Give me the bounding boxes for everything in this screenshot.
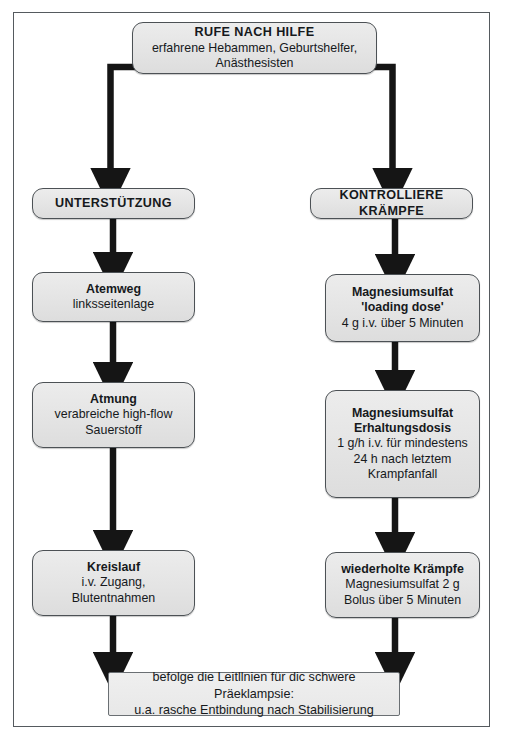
- node-support: UNTERSTÜTZUNG: [32, 188, 195, 219]
- connector-layer: [0, 0, 507, 746]
- node-breathing: Atmung verabreiche high-flow Sauerstoff: [32, 382, 195, 448]
- node-magnesium-loading-dose-line1: Magnesiumsulfat: [332, 285, 473, 300]
- node-magnesium-maintenance-dose-line5: Krampfanfall: [332, 467, 473, 482]
- node-magnesium-maintenance-dose: Magnesiumsulfat Erhaltungsdosis 1 g/h i.…: [325, 390, 480, 498]
- node-circulation: Kreislauf i.v. Zugang, Blutentnahmen: [32, 550, 195, 616]
- node-call-for-help-line2: erfahrene Hebammen, Geburtshelfer,: [139, 41, 370, 56]
- node-airway: Atemweg linksseitenlage: [32, 272, 195, 322]
- node-breathing-line1: Atmung: [39, 392, 188, 407]
- node-circulation-line1: Kreislauf: [39, 560, 188, 575]
- node-magnesium-loading-dose-line2: 'loading dose': [332, 300, 473, 315]
- node-follow-guideline: befolge die Leitllnien für dic schwere P…: [108, 672, 400, 716]
- node-call-for-help: RUFE NACH HILFE erfahrene Hebammen, Gebu…: [132, 22, 377, 74]
- node-call-for-help-line1: RUFE NACH HILFE: [139, 25, 370, 40]
- node-follow-guideline-line2: u.a. rasche Entbindung nach Stabilisieru…: [115, 702, 393, 719]
- node-airway-line2: linksseitenlage: [39, 297, 188, 312]
- node-control-seizure: KONTROLLIERE KRÄMPFE: [310, 188, 473, 219]
- node-magnesium-maintenance-dose-line3: 1 g/h i.v. für mindestens: [332, 436, 473, 451]
- node-breathing-line2: verabreiche high-flow: [39, 407, 188, 422]
- node-magnesium-maintenance-dose-line1: Magnesiumsulfat: [332, 406, 473, 421]
- node-magnesium-maintenance-dose-line2: Erhaltungsdosis: [332, 421, 473, 436]
- node-recurrent-seizures: wiederholte Krämpfe Magnesiumsulfat 2 g …: [325, 552, 480, 618]
- edge-callforhelp-to-support: [111, 67, 141, 172]
- node-airway-line1: Atemweg: [39, 282, 188, 297]
- node-follow-guideline-line1: befolge die Leitllnien für dic schwere P…: [115, 669, 393, 703]
- node-breathing-line3: Sauerstoff: [39, 423, 188, 438]
- node-recurrent-seizures-line1: wiederholte Krämpfe: [332, 562, 473, 577]
- flowchart-canvas: RUFE NACH HILFE erfahrene Hebammen, Gebu…: [0, 0, 507, 746]
- node-call-for-help-line3: Anästhesisten: [139, 56, 370, 71]
- node-control-seizure-line1: KONTROLLIERE KRÄMPFE: [317, 188, 466, 219]
- node-magnesium-loading-dose-line3: 4 g i.v. über 5 Minuten: [332, 316, 473, 331]
- edge-callforhelp-to-controlseizure: [369, 67, 393, 172]
- node-magnesium-loading-dose: Magnesiumsulfat 'loading dose' 4 g i.v. …: [325, 274, 480, 342]
- node-recurrent-seizures-line3: Bolus über 5 Minuten: [332, 593, 473, 608]
- node-support-line1: UNTERSTÜTZUNG: [39, 196, 188, 211]
- node-magnesium-maintenance-dose-line4: 24 h nach letztem: [332, 452, 473, 467]
- node-recurrent-seizures-line2: Magnesiumsulfat 2 g: [332, 577, 473, 592]
- node-circulation-line3: Blutentnahmen: [39, 591, 188, 606]
- node-circulation-line2: i.v. Zugang,: [39, 575, 188, 590]
